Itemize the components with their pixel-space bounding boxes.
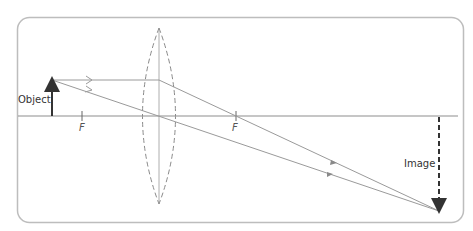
image-label: Image (404, 158, 435, 169)
ray-arrow-1 (330, 160, 337, 165)
ray-diagram: F F Object Image (0, 0, 473, 231)
rays (52, 76, 439, 211)
focal-point-left: F (79, 111, 85, 133)
object-label: Object (18, 94, 51, 105)
focal-label-left: F (79, 122, 85, 133)
frame (18, 18, 464, 223)
focal-label-right: F (232, 122, 238, 133)
